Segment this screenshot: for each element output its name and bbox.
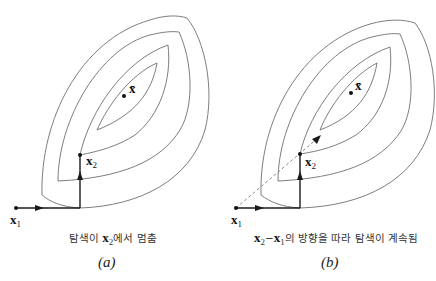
label-xbar: x̄ <box>129 81 136 96</box>
panel-a-contours <box>42 16 209 208</box>
panel-b-contours <box>261 20 434 208</box>
point-xbar <box>122 94 126 98</box>
point-x1 <box>14 206 18 210</box>
up-arrowhead-icon <box>77 171 83 180</box>
caption-b: x2−x1의 방향을 따라 탐색이 계속됨 <box>254 230 418 247</box>
label-x1: x1 <box>231 212 242 229</box>
label-x1: x1 <box>10 212 21 229</box>
dashed-arrowhead-icon <box>312 135 321 144</box>
right-arrowhead-icon <box>35 205 44 211</box>
panel-b-search-path <box>234 91 353 211</box>
caption-b-suffix: 의 방향을 따라 탐색이 계속됨 <box>285 232 418 244</box>
right-arrowhead-icon <box>255 205 264 211</box>
label-xbar: x̄ <box>355 78 362 93</box>
dashed-extension-line <box>236 138 318 208</box>
caption-b-minus: − <box>265 232 274 244</box>
caption-a-prefix: 탐색이 <box>69 232 102 244</box>
caption-a: 탐색이 x2에서 멈춤 <box>69 230 157 247</box>
point-x2 <box>298 152 302 156</box>
panel-a-labels: x1 x2 x̄ <box>10 81 136 229</box>
up-arrowhead-icon <box>297 171 303 180</box>
panel-label-a: (a) <box>98 254 116 271</box>
panel-a-search-path <box>14 94 126 211</box>
point-x1 <box>234 206 238 210</box>
label-x2: x2 <box>86 153 97 170</box>
caption-a-suffix: 에서 멈춤 <box>113 232 156 244</box>
contour-2 <box>58 32 190 181</box>
contour-4 <box>320 63 377 130</box>
contour-3 <box>80 45 169 155</box>
panel-b-labels: x1 x2 x̄ <box>231 78 362 229</box>
point-xbar <box>349 91 353 95</box>
label-x2: x2 <box>305 154 316 171</box>
point-x2 <box>78 153 82 157</box>
panel-label-b: (b) <box>321 254 339 271</box>
